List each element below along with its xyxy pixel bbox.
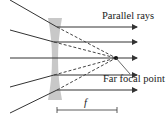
far-focal-point-label: Far focal point [103, 73, 165, 84]
diverging-lens-diagram: Parallel rays Far focal point f [0, 0, 166, 119]
concave-lens [48, 18, 62, 100]
parallel-rays-label: Parallel rays [102, 10, 154, 21]
focal-length-label: f [84, 97, 87, 108]
